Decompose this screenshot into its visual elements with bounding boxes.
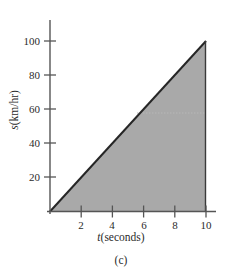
y-axis-label-unit: (km/hr) [8,90,20,125]
y-axis-label-variable: s [8,125,20,129]
y-axis-label: s(km/hr) [8,70,20,150]
y-tick-label: 100 [8,36,40,47]
y-tick-label: 20 [8,172,40,183]
x-tick-label: 2 [78,220,84,231]
x-axis-label-unit: (seconds) [101,231,145,243]
x-tick-label: 8 [172,220,178,231]
x-tick-label: 6 [141,220,147,231]
figure-caption: (c) [0,254,242,266]
figure-panel: 100 80 60 40 20 2 4 6 8 10 s(km/hr) t(se… [0,0,242,276]
x-tick-label: 4 [109,220,115,231]
x-axis-label: t(seconds) [0,231,242,243]
x-tick-label: 10 [201,220,212,231]
